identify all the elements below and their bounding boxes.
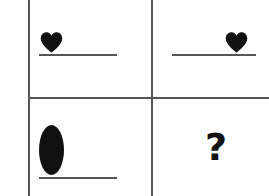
ellipse-icon — [39, 125, 64, 175]
cell-bottom-right[interactable]: ? — [153, 99, 269, 196]
heart-icon — [225, 31, 248, 54]
question-mark-glyph: ? — [196, 128, 236, 166]
analogy-puzzle-grid: ? — [0, 0, 269, 196]
cell-bottom-left[interactable] — [30, 99, 151, 196]
baseline-rule — [39, 177, 117, 179]
baseline-rule — [39, 54, 117, 56]
cell-top-right[interactable] — [153, 0, 269, 97]
baseline-rule — [172, 54, 256, 56]
heart-icon — [40, 31, 63, 54]
cell-top-left[interactable] — [30, 0, 151, 97]
